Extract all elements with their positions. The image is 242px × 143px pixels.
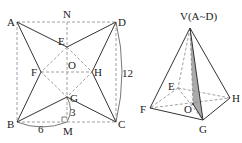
- label-F: F: [31, 66, 37, 78]
- label-B: B: [7, 118, 14, 130]
- label-C: C: [118, 118, 125, 130]
- measure-GM: 3: [70, 106, 76, 118]
- label-pyr-G: G: [199, 123, 207, 135]
- right-angle-marker: [62, 117, 67, 122]
- label-D: D: [118, 16, 126, 28]
- left-figure: A D B C N M E F G H O 12 6 3: [7, 8, 133, 137]
- label-pyr-H: H: [232, 92, 240, 104]
- diagram-canvas: A D B C N M E F G H O 12 6 3: [0, 0, 242, 143]
- label-A: A: [7, 16, 15, 28]
- point-O: [192, 103, 194, 105]
- label-V: V(A~D): [180, 10, 217, 23]
- label-pyr-E: E: [168, 80, 175, 92]
- label-pyr-F: F: [140, 103, 146, 115]
- label-O: O: [68, 59, 76, 71]
- label-G: G: [70, 92, 78, 104]
- right-figure-pyramid: V(A~D) E F G H O: [140, 10, 240, 135]
- label-E: E: [58, 35, 65, 47]
- label-pyr-O: O: [184, 103, 192, 115]
- measure-side: 12: [122, 67, 133, 79]
- label-H: H: [94, 66, 102, 78]
- measure-half: 6: [38, 123, 44, 135]
- label-N: N: [63, 8, 71, 20]
- label-M: M: [63, 125, 73, 137]
